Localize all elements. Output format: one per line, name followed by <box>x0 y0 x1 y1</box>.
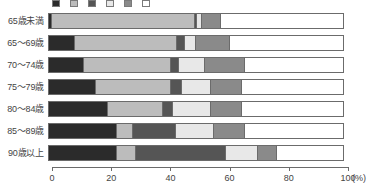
bar-segment <box>195 36 230 50</box>
bar-segment <box>213 124 245 138</box>
legend-item <box>106 0 116 7</box>
bar-segment <box>210 80 242 94</box>
bar-segment <box>116 124 134 138</box>
category-label: 70～74歳 <box>0 61 48 70</box>
bar-segment <box>244 58 338 72</box>
bar-segment <box>49 146 117 160</box>
bar-segment <box>244 124 338 138</box>
stacked-bar <box>48 145 344 161</box>
bar-segment <box>49 124 117 138</box>
legend-swatch-icon <box>70 0 78 7</box>
chart-legend <box>52 0 348 7</box>
bar-segment <box>74 36 177 50</box>
x-axis-tick-label: 20 <box>106 173 116 183</box>
bar-segment <box>172 102 210 116</box>
bar-segment <box>132 124 176 138</box>
stacked-bar <box>48 101 344 117</box>
bar-segment <box>181 80 210 94</box>
bar-segment <box>49 58 84 72</box>
category-label: 75～79歳 <box>0 83 48 92</box>
chart-row: 80～84歳 <box>0 98 383 120</box>
bar-segment <box>83 58 171 72</box>
x-axis-tick-label: 40 <box>165 173 175 183</box>
legend-swatch-icon <box>106 0 114 7</box>
x-axis-tick <box>52 167 53 171</box>
x-axis-tick-label: 60 <box>225 173 235 183</box>
bar-segment <box>49 102 108 116</box>
x-axis-unit-label: (%) <box>352 173 366 183</box>
bar-segment <box>241 102 338 116</box>
chart-row: 65歳未満 <box>0 10 383 32</box>
chart-row: 70～74歳 <box>0 54 383 76</box>
bar-segment <box>241 80 338 94</box>
chart-row: 65～69歳 <box>0 32 383 54</box>
bar-segment <box>107 102 163 116</box>
category-label: 65～69歳 <box>0 39 48 48</box>
x-axis-tick <box>289 167 290 171</box>
bar-segment <box>225 146 257 160</box>
bar-segment <box>49 36 75 50</box>
bar-segment <box>229 36 338 50</box>
stacked-bar <box>48 13 344 29</box>
chart-row: 85～89歳 <box>0 120 383 142</box>
category-label: 65歳未満 <box>0 17 48 26</box>
stacked-bar <box>48 35 344 51</box>
bar-segment <box>220 14 338 28</box>
x-axis-tick-label: 80 <box>284 173 294 183</box>
x-axis-tick-label: 0 <box>49 173 54 183</box>
bar-segment <box>276 146 338 160</box>
legend-item <box>124 0 134 7</box>
stacked-bar <box>48 123 344 139</box>
bar-segment <box>116 146 137 160</box>
x-axis-tick <box>170 167 171 171</box>
bar-segment <box>210 102 242 116</box>
chart-row: 90歳以上 <box>0 142 383 164</box>
legend-item <box>70 0 80 7</box>
x-axis-tick <box>348 167 349 171</box>
legend-item <box>52 0 62 7</box>
bar-segment <box>135 146 226 160</box>
legend-swatch-icon <box>52 0 60 7</box>
legend-swatch-icon <box>142 0 150 7</box>
bar-segment <box>95 80 171 94</box>
category-label: 90歳以上 <box>0 149 48 158</box>
bar-segment <box>257 146 278 160</box>
x-axis-tick <box>111 167 112 171</box>
stacked-bar-chart: 65歳未満65～69歳70～74歳75～79歳80～84歳85～89歳90歳以上… <box>0 0 383 191</box>
legend-item <box>142 0 152 7</box>
legend-swatch-icon <box>124 0 132 7</box>
x-axis-tick-labels: 020406080100 <box>0 173 383 187</box>
legend-item <box>88 0 98 7</box>
bar-segment <box>204 58 245 72</box>
x-axis-tick <box>230 167 231 171</box>
category-label: 80～84歳 <box>0 105 48 114</box>
chart-plot-area: 65歳未満65～69歳70～74歳75～79歳80～84歳85～89歳90歳以上 <box>0 10 383 167</box>
bar-segment <box>49 80 96 94</box>
stacked-bar <box>48 57 344 73</box>
bar-segment <box>51 14 195 28</box>
stacked-bar <box>48 79 344 95</box>
chart-row: 75～79歳 <box>0 76 383 98</box>
category-label: 85～89歳 <box>0 127 48 136</box>
x-axis-line <box>52 167 348 168</box>
legend-swatch-icon <box>88 0 96 7</box>
bar-segment <box>201 14 222 28</box>
bar-segment <box>175 124 213 138</box>
bar-segment <box>178 58 204 72</box>
